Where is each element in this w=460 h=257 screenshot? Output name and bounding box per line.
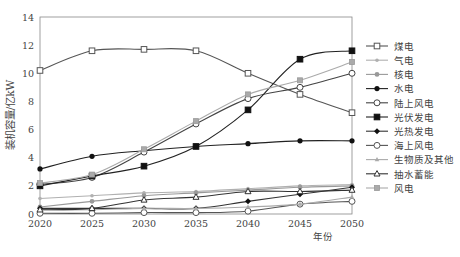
legend-label: 水电: [394, 83, 414, 94]
square-marker-icon: [193, 144, 199, 150]
dot-marker-icon: [38, 197, 42, 201]
legend-item: 煤电: [366, 41, 414, 52]
diamond-marker-icon: [374, 128, 380, 134]
dot-marker-icon: [375, 58, 379, 62]
diamond-marker-icon: [245, 198, 251, 204]
square-marker-icon: [89, 48, 95, 54]
legend-label: 风电: [394, 183, 414, 194]
legend-label: 煤电: [394, 41, 414, 52]
circle-marker-icon: [193, 210, 199, 216]
square-marker-icon: [298, 78, 303, 83]
dot-marker-icon: [90, 199, 95, 204]
x-tick-label: 2050: [340, 218, 364, 229]
x-tick-label: 2040: [236, 218, 260, 229]
circle-marker-icon: [374, 142, 380, 148]
dot-marker-icon: [349, 138, 354, 143]
dot-marker-icon: [245, 141, 250, 146]
x-tick-label: 2035: [184, 218, 208, 229]
y-tick-label: 4: [28, 152, 34, 163]
x-axis-label: 年份: [313, 231, 333, 242]
legend-item: 气电: [366, 55, 414, 66]
x-axis: 2020202520302035204020452050: [28, 218, 364, 229]
circle-marker-icon: [245, 208, 251, 214]
series-line: [37, 70, 355, 187]
legend-item: 海上风电: [366, 140, 434, 151]
legend-label: 抽水蓄能: [394, 169, 434, 180]
square-marker-icon: [374, 114, 380, 120]
legend-label: 光伏发电: [394, 112, 434, 123]
square-marker-icon: [374, 43, 380, 49]
square-marker-icon: [297, 92, 303, 98]
y-tick-label: 10: [22, 68, 34, 79]
legend-label: 气电: [394, 55, 414, 66]
legend-label: 生物质及其他: [394, 154, 454, 165]
y-tick-label: 8: [28, 96, 34, 107]
series-line: [37, 47, 355, 116]
y-axis: 02468101214: [22, 12, 34, 220]
dot-marker-icon: [374, 86, 379, 91]
y-tick-label: 6: [28, 124, 34, 135]
x-tick-label: 2025: [80, 218, 104, 229]
legend: 煤电气电核电水电陆上风电光伏发电光热发电海上风电生物质及其他抽水蓄能风电: [366, 41, 454, 194]
plot-area: [40, 17, 352, 214]
dot-marker-icon: [89, 154, 94, 159]
series-path: [40, 49, 352, 113]
circle-marker-icon: [349, 198, 355, 204]
square-marker-icon: [90, 172, 95, 177]
dot-marker-icon: [90, 194, 94, 198]
series-line: [38, 60, 355, 186]
plot-border: [40, 17, 352, 214]
y-tick-label: 2: [28, 180, 34, 191]
legend-item: 水电: [366, 83, 414, 94]
legend-item: 陆上风电: [366, 98, 434, 109]
circle-marker-icon: [141, 210, 147, 216]
line-chart: 02468101214 2020202520302035204020452050…: [0, 0, 460, 257]
y-tick-label: 14: [22, 12, 34, 23]
square-marker-icon: [375, 186, 380, 191]
square-marker-icon: [350, 60, 355, 65]
dot-marker-icon: [375, 72, 380, 77]
y-axis-label: 装机容量/亿kW: [4, 79, 16, 150]
triangle-marker-icon: [350, 195, 355, 199]
circle-marker-icon: [349, 70, 355, 76]
legend-label: 海上风电: [394, 140, 434, 151]
dot-marker-icon: [37, 166, 42, 171]
legend-label: 光热发电: [394, 126, 434, 137]
x-tick-label: 2020: [28, 218, 52, 229]
square-marker-icon: [141, 163, 147, 169]
legend-item: 风电: [366, 183, 414, 194]
circle-marker-icon: [297, 84, 303, 90]
square-marker-icon: [37, 68, 43, 74]
square-marker-icon: [349, 48, 355, 54]
square-marker-icon: [194, 119, 199, 124]
square-marker-icon: [245, 107, 251, 113]
x-tick-label: 2030: [132, 218, 156, 229]
y-tick-label: 12: [22, 40, 34, 51]
x-tick-label: 2045: [288, 218, 312, 229]
dot-marker-icon: [297, 138, 302, 143]
legend-item: 光伏发电: [366, 112, 434, 123]
legend-item: 生物质及其他: [366, 154, 454, 165]
square-marker-icon: [297, 56, 303, 62]
square-marker-icon: [246, 92, 251, 97]
series-layer: [37, 47, 355, 217]
square-marker-icon: [141, 47, 147, 53]
square-marker-icon: [142, 147, 147, 152]
legend-item: 抽水蓄能: [366, 169, 434, 180]
square-marker-icon: [38, 181, 43, 186]
legend-label: 陆上风电: [394, 98, 434, 109]
square-marker-icon: [349, 110, 355, 116]
circle-marker-icon: [374, 100, 380, 106]
series-path: [40, 73, 352, 184]
legend-item: 核电: [366, 69, 414, 80]
legend-item: 光热发电: [366, 126, 434, 137]
square-marker-icon: [245, 70, 251, 76]
legend-label: 核电: [394, 69, 414, 80]
square-marker-icon: [193, 48, 199, 54]
